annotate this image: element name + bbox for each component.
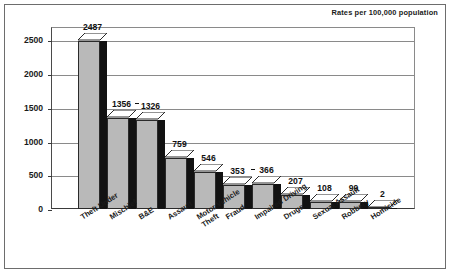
bar-side-face — [100, 34, 107, 209]
chart-caption: Rates per 100,000 population — [332, 8, 438, 17]
y-axis-tick-label: 0 — [0, 204, 43, 214]
bar — [78, 34, 107, 209]
bar-side-face — [158, 113, 165, 209]
bar — [136, 113, 165, 209]
chart-figure: Rates per 100,000 population 05001000150… — [0, 0, 450, 273]
bar-value-label: 2487 — [73, 22, 113, 32]
y-axis-tick-label: 1500 — [0, 103, 43, 113]
bar-value-label: 759 — [160, 139, 200, 149]
bar-value-label: 546 — [189, 153, 229, 163]
y-axis-tick-label: 1000 — [0, 137, 43, 147]
bar-top-face — [136, 112, 165, 120]
bar-value-label: 366 — [247, 165, 287, 175]
value-connector — [251, 169, 255, 170]
bar-top-face — [107, 110, 136, 118]
bar-top-face — [223, 177, 252, 185]
y-axis-tick-label: 2500 — [0, 35, 43, 45]
y-axis-tick-label: 500 — [0, 170, 43, 180]
x-axis-labels: Theft UnderMischiefB&EAssaultMotor Vehic… — [51, 210, 415, 270]
bar-side-face — [129, 111, 136, 209]
bar-front-face — [78, 41, 100, 209]
bar-series: 248713561326759546353366207108992 — [51, 27, 415, 209]
bar-top-face — [78, 33, 107, 41]
value-connector — [135, 103, 139, 104]
y-axis-tick-label: 2000 — [0, 69, 43, 79]
bar-front-face — [136, 120, 158, 209]
